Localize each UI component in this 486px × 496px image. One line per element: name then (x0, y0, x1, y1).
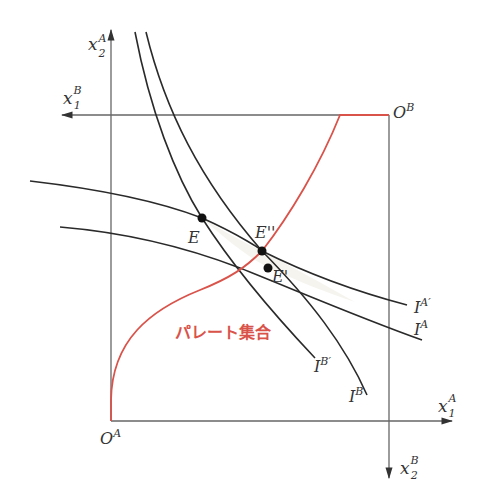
label-origin-B: OB (393, 101, 414, 122)
pareto-set-curve (111, 115, 389, 421)
label-point-E: E (187, 228, 200, 247)
label-curve-IA: IA (413, 318, 428, 339)
label-origin-A: OA (100, 427, 121, 448)
label-curve-IA-prime: IA′ (413, 296, 431, 317)
label-x1B: xB1 (63, 84, 82, 112)
lens-region (202, 218, 355, 302)
point-E (198, 214, 207, 223)
label-curve-IB-prime: IB′ (313, 355, 331, 376)
label-point-E-double-prime: E'' (254, 223, 275, 242)
label-x2A: xA2 (88, 32, 107, 60)
label-x2B: xB2 (400, 454, 419, 482)
label-x1A: xA1 (438, 392, 457, 420)
label-curve-IB: IB (348, 385, 363, 406)
label-point-E-prime: E' (271, 267, 288, 286)
edgeworth-box-diagram: xA2 xB1 xA1 xB2 OA OB E E'' E' IA′ IA IB… (0, 0, 486, 496)
label-pareto-set: パレート集合 (175, 323, 272, 342)
point-E-double-prime (258, 247, 267, 256)
